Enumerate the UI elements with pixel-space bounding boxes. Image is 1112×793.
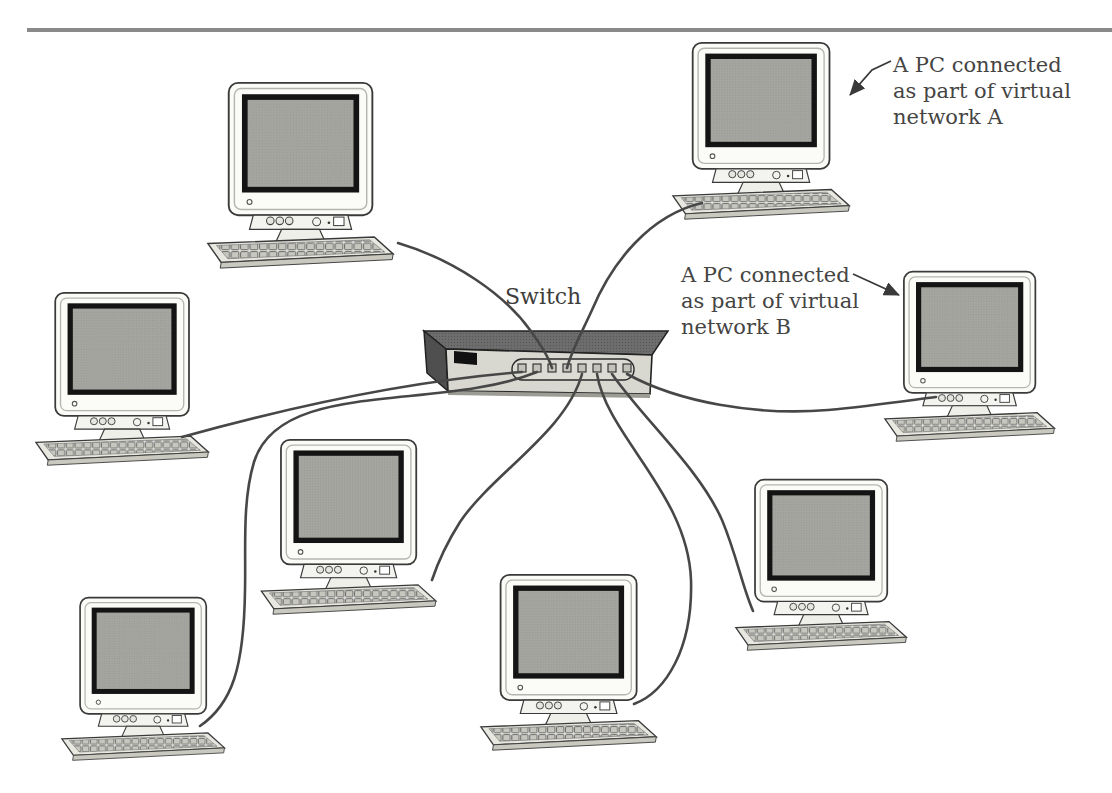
pc-bottom-center (481, 575, 656, 750)
port-8 (623, 364, 631, 372)
annotation-a-line3: network A (893, 104, 1071, 130)
arrow-to-network-b-pc (853, 274, 899, 295)
annotation-b-line3: network B (681, 314, 859, 340)
cable-center-pc (432, 374, 582, 580)
pc-bottom-left (62, 598, 225, 761)
cable-lowerright-pc (612, 374, 753, 611)
switch-label: Switch (505, 284, 581, 309)
annotation-b-line2: as part of virtual (681, 288, 859, 314)
port-6 (593, 364, 601, 372)
switch-device (424, 331, 668, 398)
pc-center (261, 440, 435, 614)
port-5 (578, 364, 586, 372)
pc-top-left (208, 83, 393, 268)
port-7 (608, 364, 616, 372)
cable-rightmiddle-pc (627, 374, 936, 411)
pc-top-right (673, 43, 849, 219)
switch-brand-label (454, 351, 477, 365)
annotation-virtual-network-a: A PC connected as part of virtual networ… (893, 52, 1071, 130)
annotation-a-line1: A PC connected (893, 52, 1071, 78)
textbook-figure: Switch A PC connected as part of virtual… (0, 0, 1112, 793)
arrow-to-network-a-pc (850, 61, 891, 95)
annotation-b-line1: A PC connected (681, 262, 859, 288)
annotation-arrows (850, 61, 899, 295)
pc-left-middle (36, 293, 208, 465)
pc-lower-right (736, 480, 907, 651)
pc-right-middle (885, 272, 1055, 442)
annotation-a-line2: as part of virtual (893, 78, 1071, 104)
annotation-virtual-network-b: A PC connected as part of virtual networ… (681, 262, 859, 340)
